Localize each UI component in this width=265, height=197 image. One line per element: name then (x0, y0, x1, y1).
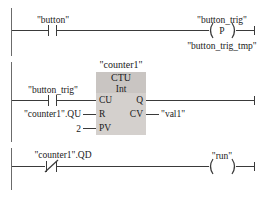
contact-no-button-glyph (49, 25, 57, 36)
counter-pin-q: Q (136, 95, 143, 105)
coil-type-letter-p: P (219, 26, 224, 36)
coil-label-run[interactable]: "run" (212, 151, 232, 161)
counter-operand-r[interactable]: "counter1".QU (24, 109, 81, 119)
counter-pin-r: R (99, 109, 105, 119)
contact-label-button[interactable]: "button" (37, 15, 69, 25)
counter-block-instance-label[interactable]: "counter1" (99, 60, 142, 70)
ladder-graphics-layer (0, 0, 265, 197)
ladder-diagram-canvas: "button" "button_trig" P "button_trig_tm… (0, 0, 265, 197)
coil-label-button-trig-tmp[interactable]: "button_trig_tmp" (187, 41, 257, 51)
counter-block-type-label: CTU (111, 73, 131, 83)
counter-pin-cv: CV (130, 109, 143, 119)
contact-label-button-trig[interactable]: "button_trig" (28, 85, 78, 95)
counter-block-datatype-label[interactable]: Int (116, 84, 127, 94)
counter-operand-cv[interactable]: "val1" (161, 109, 185, 119)
counter-pin-pv: PV (99, 123, 111, 133)
contact-label-counter-qd[interactable]: "counter1".QD (34, 150, 91, 160)
contact-nc-counter-qd-glyph (45, 160, 58, 172)
coil-output-run-glyph (211, 159, 235, 174)
counter-operand-pv[interactable]: 2 (76, 124, 81, 134)
counter-pin-cu: CU (99, 95, 112, 105)
contact-no-button-trig-glyph (49, 95, 57, 106)
coil-label-button-trig[interactable]: "button_trig" (197, 15, 247, 25)
